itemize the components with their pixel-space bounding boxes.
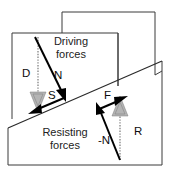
vector-R-label: R <box>134 125 142 137</box>
vector-S-arrowhead <box>28 104 42 114</box>
driving-forces-label-line1: Driving <box>54 35 88 47</box>
vector-D: D <box>22 37 46 112</box>
driving-forces-label-line2: forces <box>56 48 86 60</box>
resisting-forces-label-line1: Resisting <box>42 126 87 138</box>
diagram-canvas: Driving forces Resisting forces D N S <box>0 0 175 178</box>
vector-F-label: F <box>104 89 111 101</box>
vector-negN-label: -N <box>98 134 110 146</box>
upper-right-block-bottom-tie <box>155 71 162 75</box>
vector-S-label: S <box>48 89 56 101</box>
resisting-forces-label-line2: forces <box>50 139 80 151</box>
vector-D-label: D <box>22 67 30 79</box>
slope-force-diagram: Driving forces Resisting forces D N S <box>0 0 175 178</box>
vector-N-label: N <box>54 69 62 81</box>
